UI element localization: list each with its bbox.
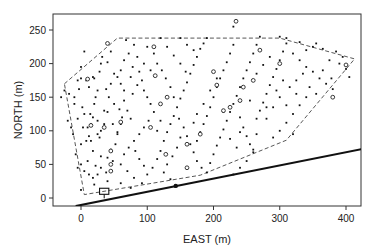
- filled-point: [138, 71, 140, 73]
- filled-point: [88, 174, 90, 176]
- filled-point: [90, 140, 92, 142]
- filled-point: [77, 118, 79, 120]
- filled-point: [239, 116, 241, 118]
- filled-point: [203, 123, 205, 125]
- filled-point: [252, 53, 254, 55]
- open-circle-point: [164, 152, 168, 156]
- filled-point: [196, 160, 198, 162]
- plot-border: [53, 14, 361, 206]
- filled-point: [170, 86, 172, 88]
- open-circle-point: [198, 132, 202, 136]
- filled-point: [193, 122, 195, 124]
- filled-point: [246, 69, 248, 71]
- open-circle-point: [278, 62, 282, 66]
- filled-point: [100, 63, 102, 65]
- filled-point: [262, 102, 264, 104]
- filled-point: [173, 96, 175, 98]
- filled-point: [156, 130, 158, 132]
- axis-ticks: 0100200300400050100150200250: [29, 25, 354, 225]
- filled-point: [203, 103, 205, 105]
- filled-point: [315, 93, 317, 95]
- filled-point: [338, 63, 340, 65]
- filled-point: [193, 151, 195, 153]
- filled-point: [256, 118, 258, 120]
- filled-point: [88, 135, 90, 137]
- filled-point: [107, 157, 109, 159]
- filled-point: [239, 131, 241, 133]
- filled-point: [178, 118, 180, 120]
- filled-point: [272, 137, 274, 139]
- filled-point: [262, 64, 264, 66]
- filled-point: [279, 96, 281, 98]
- filled-point: [133, 140, 135, 142]
- filled-point: [170, 123, 172, 125]
- open-circle-point: [109, 149, 113, 153]
- filled-point: [206, 172, 208, 174]
- filled-point: [92, 116, 94, 118]
- filled-point: [315, 43, 317, 45]
- y-axis-label: NORTH (m): [12, 81, 24, 139]
- filled-point: [325, 83, 327, 85]
- filled-point: [166, 131, 168, 133]
- filled-point: [75, 153, 77, 155]
- y-tick-label: 50: [35, 159, 47, 170]
- filled-point: [176, 147, 178, 149]
- filled-point: [232, 103, 234, 105]
- filled-point: [83, 51, 85, 53]
- filled-point: [136, 84, 138, 86]
- y-tick-label: 250: [29, 25, 46, 36]
- x-tick-label: 0: [78, 213, 84, 224]
- filled-point: [219, 77, 221, 79]
- filled-point: [97, 90, 99, 92]
- filled-point: [172, 155, 174, 157]
- filled-point: [67, 120, 69, 122]
- filled-point: [72, 133, 74, 135]
- filled-point: [117, 133, 119, 135]
- open-circle-point: [119, 120, 123, 124]
- filled-point: [203, 43, 205, 45]
- open-circle-point: [86, 77, 90, 81]
- filled-point: [289, 86, 291, 88]
- filled-point: [80, 77, 82, 79]
- filled-point: [83, 170, 85, 172]
- filled-point: [120, 69, 122, 71]
- filled-point: [186, 82, 188, 84]
- filled-point: [249, 61, 251, 63]
- filled-point: [132, 66, 134, 68]
- filled-point: [252, 151, 254, 153]
- filled-point: [312, 46, 314, 48]
- filled-point: [93, 184, 95, 186]
- filled-point: [146, 174, 148, 176]
- open-circle-point: [331, 95, 335, 99]
- filled-point: [216, 145, 218, 147]
- filled-point: [138, 158, 140, 160]
- filled-point: [179, 137, 181, 139]
- filled-point: [206, 115, 208, 117]
- filled-point: [179, 37, 181, 39]
- filled-point: [299, 104, 301, 106]
- filled-point: [209, 162, 211, 164]
- filled-point: [100, 155, 102, 157]
- filled-point: [143, 63, 145, 65]
- filled-point: [123, 59, 125, 61]
- filled-point: [319, 77, 321, 79]
- filled-point: [141, 80, 143, 82]
- open-circle-point: [185, 142, 189, 146]
- filled-point: [152, 167, 154, 169]
- filled-point: [272, 76, 274, 78]
- filled-point: [292, 53, 294, 55]
- filled-point: [292, 113, 294, 115]
- filled-point: [156, 158, 158, 160]
- x-tick-label: 300: [271, 213, 288, 224]
- filled-point: [153, 111, 155, 113]
- data-points: [60, 19, 350, 190]
- filled-point: [216, 77, 218, 79]
- filled-point: [95, 165, 97, 167]
- open-circle-point: [152, 45, 156, 49]
- filled-point: [115, 143, 117, 145]
- filled-point: [213, 96, 215, 98]
- filled-point: [223, 69, 225, 71]
- filled-point: [123, 153, 125, 155]
- filled-point: [83, 113, 85, 115]
- filled-point: [331, 77, 333, 79]
